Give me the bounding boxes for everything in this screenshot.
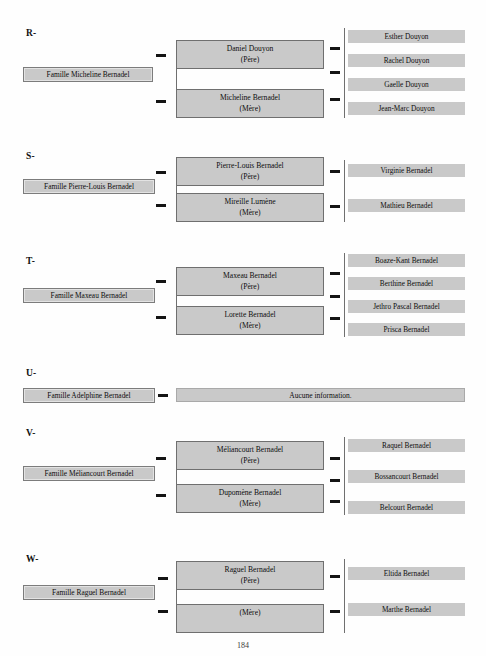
mother-name: Lorette Bernadel — [177, 310, 323, 321]
connector-dash-family-mother — [158, 610, 168, 613]
connector-dash-family-mother — [156, 316, 166, 319]
children-vertical-rail — [344, 559, 345, 633]
connector-dash-child — [330, 610, 340, 613]
mother-box[interactable]: Micheline Bernadel (Mère) — [176, 89, 324, 118]
connector-dash-child — [330, 295, 340, 298]
child-box[interactable]: Boaze-Kant Bernadel — [348, 254, 465, 267]
father-role: (Père) — [177, 576, 323, 587]
family-section-s: S- Famille Pierre-Louis Bernadel Pierre-… — [0, 140, 486, 245]
father-box[interactable]: Méliancourt Bernadel (Père) — [176, 441, 324, 470]
child-box[interactable]: Prisca Bernadel — [348, 323, 465, 336]
connector-dash-family-mother — [156, 100, 166, 103]
child-box[interactable]: Marthe Bernadel — [348, 603, 465, 616]
connector-dash-family-father — [156, 280, 166, 283]
mother-name: Mireille Lumène — [177, 197, 323, 208]
mother-role: (Mère) — [177, 608, 323, 619]
father-role: (Père) — [177, 282, 323, 293]
connector-dash-child — [330, 205, 340, 208]
father-name: Méliancourt Bernadel — [177, 445, 323, 456]
mother-role: (Mère) — [177, 321, 323, 332]
father-box[interactable]: Daniel Douyon (Père) — [176, 40, 324, 69]
father-name: Raguel Bernadel — [177, 565, 323, 576]
family-label-box[interactable]: Famille Maxeau Bernadel — [23, 288, 155, 303]
mother-role: (Mère) — [177, 104, 323, 115]
section-letter: W- — [26, 554, 39, 564]
connector-dash-family-info — [158, 394, 168, 397]
document-page: R- Famille Micheline Bernadel Daniel Dou… — [0, 0, 486, 656]
child-box[interactable]: Virginie Bernadel — [348, 164, 465, 177]
family-label-box[interactable]: Famille Pierre-Louis Bernadel — [23, 179, 155, 194]
connector-dash-child — [330, 98, 340, 101]
children-vertical-rail — [344, 28, 345, 118]
mother-role: (Mère) — [177, 208, 323, 219]
connector-dash-child — [330, 272, 340, 275]
page-number: 184 — [0, 641, 486, 650]
mother-role: (Mère) — [177, 499, 323, 510]
child-box[interactable]: Esther Douyon — [348, 30, 465, 43]
section-letter: S- — [26, 151, 35, 161]
father-name: Maxeau Bernadel — [177, 271, 323, 282]
connector-dash-family-father — [156, 171, 166, 174]
section-letter: T- — [26, 256, 35, 266]
father-name: Pierre-Louis Bernadel — [177, 161, 323, 172]
father-box[interactable]: Maxeau Bernadel (Père) — [176, 267, 324, 296]
child-box[interactable]: Raquel Bernadel — [348, 439, 465, 452]
section-letter: R- — [26, 28, 36, 38]
father-box[interactable]: Raguel Bernadel (Père) — [176, 561, 324, 590]
mother-box[interactable]: (Mère) — [176, 604, 324, 633]
connector-dash-family-father — [156, 457, 166, 460]
connector-dash-child — [330, 479, 340, 482]
child-box[interactable]: Jethro Pascal Bernadel — [348, 300, 465, 313]
child-box[interactable]: Belcourt Bernadel — [348, 501, 465, 514]
father-role: (Père) — [177, 456, 323, 467]
child-box[interactable]: Berthine Bernadel — [348, 277, 465, 290]
connector-dash-child — [330, 575, 340, 578]
children-vertical-rail — [344, 253, 345, 337]
family-section-u: U- Famille Adelphine Bernadel Aucune inf… — [0, 357, 486, 415]
child-box[interactable]: Gaelle Douyon — [348, 78, 465, 91]
connector-dash-family-father — [158, 577, 168, 580]
mother-box[interactable]: Mireille Lumène (Mère) — [176, 193, 324, 222]
family-section-r: R- Famille Micheline Bernadel Daniel Dou… — [0, 0, 486, 140]
child-box[interactable]: Bossancourt Bernadel — [348, 470, 465, 483]
connector-dash-family-mother — [156, 494, 166, 497]
father-role: (Père) — [177, 172, 323, 183]
family-label-box[interactable]: Famille Méliancourt Bernadel — [23, 466, 155, 481]
connector-dash-child — [330, 47, 340, 50]
mother-box[interactable]: Lorette Bernadel (Mère) — [176, 306, 324, 335]
children-vertical-rail — [344, 160, 345, 222]
mother-name: Dupomène Bernadel — [177, 488, 323, 499]
section-letter: V- — [26, 428, 36, 438]
father-role: (Père) — [177, 55, 323, 66]
family-label-box[interactable]: Famille Micheline Bernadel — [23, 67, 153, 82]
father-name: Daniel Douyon — [177, 44, 323, 55]
child-box[interactable]: Mathieu Bernadel — [348, 199, 465, 212]
connector-dash-child — [330, 457, 340, 460]
family-label-box[interactable]: Famille Adelphine Bernadel — [23, 388, 155, 403]
connector-dash-family-father — [156, 54, 166, 57]
family-section-t: T- Famille Maxeau Bernadel Maxeau Bernad… — [0, 245, 486, 357]
connector-dash-family-mother — [156, 204, 166, 207]
mother-name: Micheline Bernadel — [177, 93, 323, 104]
connector-dash-child — [330, 317, 340, 320]
child-box[interactable]: Jean-Marc Douyon — [348, 102, 465, 115]
children-vertical-rail — [344, 437, 345, 515]
child-box[interactable]: Eltida Bernadel — [348, 567, 465, 580]
no-information-box: Aucune information. — [176, 388, 465, 402]
child-box[interactable]: Rachel Douyon — [348, 54, 465, 67]
section-letter: U- — [26, 368, 36, 378]
family-label-box[interactable]: Famille Raguel Bernadel — [23, 585, 155, 600]
father-box[interactable]: Pierre-Louis Bernadel (Père) — [176, 157, 324, 186]
family-section-w: W- Famille Raguel Bernadel Raguel Bernad… — [0, 533, 486, 643]
connector-dash-child — [330, 71, 340, 74]
connector-dash-child — [330, 500, 340, 503]
family-section-v: V- Famille Méliancourt Bernadel Mélianco… — [0, 415, 486, 533]
connector-dash-child — [330, 170, 340, 173]
mother-box[interactable]: Dupomène Bernadel (Mère) — [176, 484, 324, 513]
